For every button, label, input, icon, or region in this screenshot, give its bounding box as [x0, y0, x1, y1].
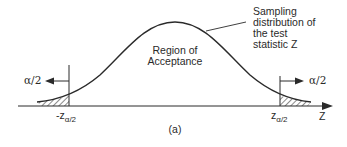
left-critical-main: -z — [56, 109, 65, 121]
left-critical-sub: α/2 — [65, 115, 76, 124]
region-label-line-2: Acceptance — [135, 56, 215, 67]
left-tail-arrow — [45, 78, 69, 85]
left-critical-value-label: -zα/2 — [56, 110, 76, 122]
figure-caption: (a) — [160, 124, 190, 135]
sampling-distribution-annotation: Sampling distribution of the test statis… — [253, 6, 315, 50]
region-of-acceptance-label: Region of Acceptance — [135, 45, 215, 67]
annotation-line-4: statistic Z — [253, 39, 315, 50]
annotation-leader-line — [206, 22, 246, 31]
right-tail-arrow — [280, 78, 304, 85]
arrow-left-icon — [45, 78, 54, 85]
left-tail-alpha-label: α/2 — [24, 75, 41, 86]
axis-arrow-icon — [322, 102, 333, 110]
left-rejection-region — [37, 96, 69, 107]
axis-label-z: Z — [319, 111, 325, 122]
right-critical-sub: α/2 — [276, 115, 287, 124]
right-tail-alpha-label: α/2 — [309, 75, 326, 86]
right-critical-value-label: zα/2 — [271, 110, 288, 122]
arrow-right-icon — [295, 78, 304, 85]
